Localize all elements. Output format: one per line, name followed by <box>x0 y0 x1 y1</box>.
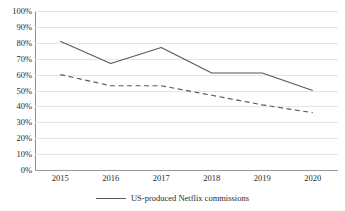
x-axis-tick-label: 2015 <box>52 174 69 183</box>
y-axis-tick-label: 50% <box>2 86 32 95</box>
y-axis-tick-label: 60% <box>2 70 32 79</box>
legend-label: US-produced Netflix commissions <box>131 194 249 203</box>
series-line-1 <box>60 75 313 113</box>
series-lines <box>35 11 338 170</box>
plot-area <box>35 11 338 170</box>
y-axis-tick-label: 0% <box>2 166 32 175</box>
y-axis-tick-label: 100% <box>2 7 32 16</box>
legend-line-swatch <box>96 198 126 199</box>
x-axis-tick-label: 2016 <box>102 174 119 183</box>
chart-legend: US-produced Netflix commissions <box>0 191 345 205</box>
y-axis-tick-label: 80% <box>2 39 32 48</box>
x-axis-tick-label: 2019 <box>254 174 271 183</box>
line-chart: 0%10%20%30%40%50%60%70%80%90%100% 201520… <box>0 0 345 211</box>
legend-entry[interactable]: US-produced Netflix commissions <box>96 194 249 203</box>
y-axis-tick-label: 10% <box>2 150 32 159</box>
x-axis: 201520162017201820192020 <box>35 172 338 188</box>
x-axis-tick-label: 2018 <box>203 174 220 183</box>
x-axis-baseline <box>35 170 338 171</box>
y-axis-tick-label: 90% <box>2 23 32 32</box>
y-axis-tick-label: 70% <box>2 54 32 63</box>
y-axis-tick-label: 30% <box>2 118 32 127</box>
x-axis-tick-label: 2017 <box>153 174 170 183</box>
x-axis-tick-label: 2020 <box>304 174 321 183</box>
y-axis-tick-label: 40% <box>2 102 32 111</box>
y-axis: 0%10%20%30%40%50%60%70%80%90%100% <box>0 0 32 211</box>
y-axis-tick-label: 20% <box>2 134 32 143</box>
